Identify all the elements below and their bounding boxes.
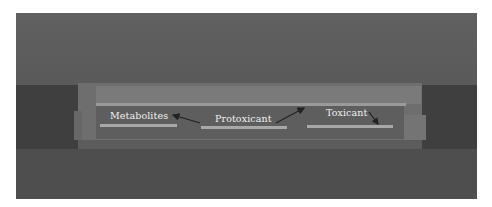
arrow-to-toxicant-pad-icon: [369, 112, 378, 124]
arrow-to-metabolites-icon: [173, 115, 200, 123]
arrows-overlay: [16, 13, 477, 199]
arrow-to-channel-icon: [276, 108, 304, 123]
device-photo: Metabolites Protoxicant Toxicant: [16, 13, 477, 199]
